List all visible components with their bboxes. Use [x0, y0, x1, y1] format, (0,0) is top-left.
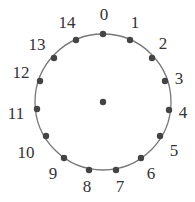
node-label: 1	[131, 13, 140, 32]
node-label: 9	[49, 164, 58, 183]
node-point	[113, 167, 119, 173]
node-label: 11	[8, 104, 24, 123]
node-point	[100, 31, 106, 37]
node-label: 3	[175, 69, 184, 88]
node-point	[162, 78, 168, 84]
node-label: 12	[13, 63, 30, 82]
node-point	[51, 55, 57, 61]
node-label: 5	[170, 141, 179, 160]
node-point	[166, 107, 172, 113]
center-point	[100, 99, 106, 105]
node-label: 14	[59, 13, 77, 32]
node-point	[138, 155, 144, 161]
node-point	[73, 37, 79, 43]
circular-node-diagram: 01234567891011121314	[0, 0, 195, 202]
node-label: 2	[159, 34, 168, 53]
node-point	[157, 133, 163, 139]
node-point	[61, 155, 67, 161]
node-point	[149, 55, 155, 61]
node-point	[37, 78, 43, 84]
node-label: 0	[100, 5, 109, 24]
node-label: 8	[83, 177, 92, 196]
node-label: 4	[179, 103, 188, 122]
node-label: 6	[147, 164, 156, 183]
node-point	[43, 133, 49, 139]
node-label: 7	[116, 177, 125, 196]
node-point	[34, 106, 40, 112]
node-point	[86, 167, 92, 173]
node-point	[127, 37, 133, 43]
node-label: 10	[18, 143, 35, 162]
node-label: 13	[29, 35, 46, 54]
